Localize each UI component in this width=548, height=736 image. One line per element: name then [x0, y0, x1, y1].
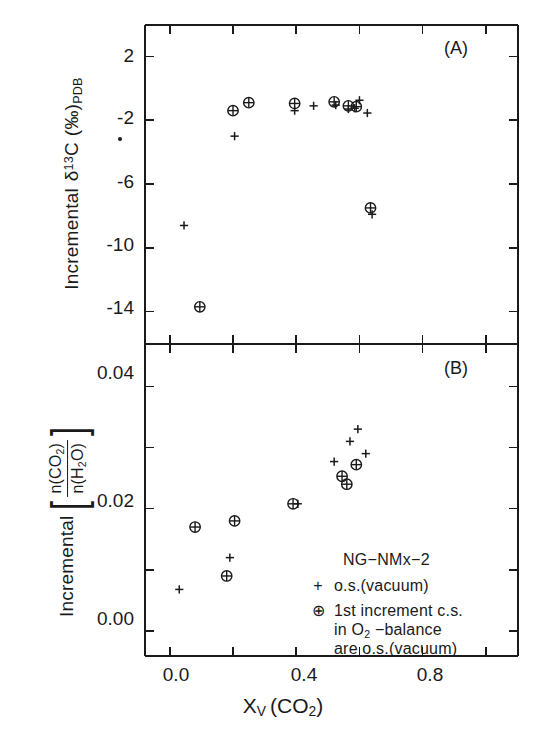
legend-continuation-line-2: are o.s.(vacuum): [334, 640, 463, 659]
panel-a-y-axis-label: Incrementalδ13C(‰)PDB: [61, 34, 84, 334]
circled-plus-marker-icon: ⊕: [309, 602, 327, 621]
panel-b-ylabel-fraction: [n(CO2)n(H2O)]: [47, 425, 89, 512]
panel-a-ylabel-unit: (‰): [61, 104, 82, 136]
legend-cont-1a: in O: [334, 621, 364, 638]
legend-item-first-increment: ⊕ 1st increment c.s.: [309, 602, 463, 621]
scan-speck: [118, 137, 122, 141]
panel-b-y-axis-label: Incremental[n(CO2)n(H2O)]: [47, 371, 89, 671]
x-axis-label-x: X: [243, 694, 257, 717]
x-axis-label-rest: (CO: [270, 694, 309, 717]
fraction-denominator-sub: 2: [76, 461, 88, 467]
x-axis-label-rest-end: ): [316, 694, 323, 717]
x-axis-label: XV(CO2): [243, 694, 323, 719]
fraction-denominator-end: O): [70, 443, 87, 461]
xtick-00: 0.0: [146, 664, 206, 686]
legend-item-first-increment-label: 1st increment c.s.: [334, 602, 463, 621]
plus-marker-icon: +: [309, 577, 327, 596]
panel-b-ylabel-prefix: Incremental: [56, 516, 77, 617]
legend-item-os-vacuum: + o.s.(vacuum): [309, 577, 463, 596]
legend-cont-1b: −balance: [370, 621, 442, 638]
figure-container: 2 -2 -6 -10 -14 0.04 0.02 0.00 0.0 0.4 0…: [0, 0, 548, 736]
fraction-numerator: n(CO: [47, 455, 64, 494]
xtick-08: 0.8: [400, 664, 460, 686]
panel-a-ylabel-sub: PDB: [71, 77, 85, 103]
panel-a-ylabel-delta: δ: [61, 170, 82, 181]
panel-a-ylabel-prefix: Incremental: [61, 188, 82, 289]
legend-item-os-vacuum-label: o.s.(vacuum): [334, 577, 429, 596]
bracket-left-icon: [: [50, 500, 87, 509]
panel-a-ylabel-c: C: [61, 142, 82, 156]
panel-a-ylabel-sup: 13: [62, 156, 76, 170]
legend-continuation-line-1: in O2 −balance: [334, 621, 463, 640]
legend-title: NG−NMx−2: [343, 551, 463, 570]
panel-b-tag: (B): [444, 358, 468, 379]
fraction-denominator: n(H: [70, 467, 87, 493]
fraction-numerator-end: ): [47, 443, 64, 449]
panel-a-ytick-m10: -10: [80, 234, 134, 256]
panel-a-ytick-2: 2: [88, 45, 134, 67]
x-axis-label-sub: V: [257, 703, 266, 719]
bracket-right-icon: ]: [50, 427, 87, 436]
panel-a-tag: (A): [444, 38, 468, 59]
legend: NG−NMx−2 + o.s.(vacuum) ⊕ 1st increment …: [309, 551, 463, 658]
panel-a-ytick-m14: -14: [80, 297, 134, 319]
xtick-04: 0.4: [274, 664, 334, 686]
panel-a-ytick-m6: -6: [88, 171, 134, 193]
fraction-numerator-sub: 2: [54, 448, 66, 454]
panel-a-ytick-m2: -2: [88, 107, 134, 129]
